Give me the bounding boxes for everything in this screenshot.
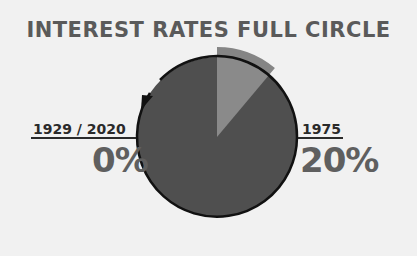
left-year-label: 1929 / 2020 — [33, 121, 126, 137]
left-divider — [31, 137, 136, 139]
right-year-label: 1975 — [302, 121, 341, 137]
right-divider — [298, 137, 343, 139]
right-value: 20% — [300, 140, 378, 180]
left-value: 0% — [92, 140, 148, 180]
